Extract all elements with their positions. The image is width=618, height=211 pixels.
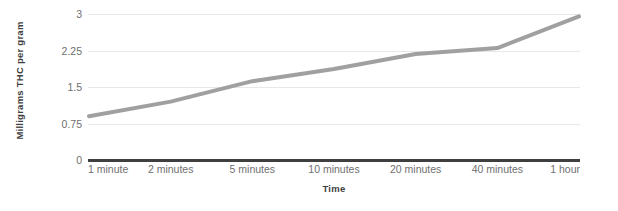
x-axis-line: [88, 159, 580, 162]
y-axis-tick-labels: 32.251.50.750: [34, 0, 82, 211]
x-axis-tick-label: 10 minutes: [308, 163, 359, 175]
y-axis-tick-label: 0.75: [38, 118, 82, 130]
series-polyline: [89, 16, 579, 116]
x-axis-tick-labels: 1 minute2 minutes5 minutes10 minutes20 m…: [88, 163, 580, 179]
x-axis-tick-label: 40 minutes: [472, 163, 523, 175]
line-chart: Milligrams THC per gram 32.251.50.750 1 …: [0, 0, 618, 211]
plot-area: [88, 14, 580, 160]
y-axis-tick-label: 3: [38, 8, 82, 20]
x-axis-tick-label: 2 minutes: [148, 163, 194, 175]
y-axis-title-label: Milligrams THC per gram: [13, 21, 24, 139]
x-axis-tick-label: 1 hour: [550, 163, 580, 175]
x-axis-tick-label: 5 minutes: [230, 163, 276, 175]
y-axis-tick-label: 2.25: [38, 45, 82, 57]
y-axis-tick-label: 0: [38, 154, 82, 166]
x-axis-title: Time: [88, 183, 580, 194]
x-axis-tick-label: 20 minutes: [390, 163, 441, 175]
y-axis-tick-label: 1.5: [38, 81, 82, 93]
x-axis-tick-label: 1 minute: [88, 163, 128, 175]
series-line: [88, 14, 580, 160]
